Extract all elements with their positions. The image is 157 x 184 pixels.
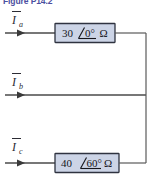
current-arrow-ic	[17, 160, 25, 167]
current-symbol-ib: I	[11, 75, 17, 89]
current-subscript-ib: b	[19, 82, 23, 91]
circuit-diagram: I a 30 0° Ω I b	[0, 0, 157, 184]
current-label-ib: I b	[11, 74, 23, 92]
branch-b-group: I b	[5, 74, 146, 99]
impedance-angle-c: 60°	[87, 157, 102, 169]
current-subscript-ic: c	[19, 147, 23, 156]
current-arrow-ia	[17, 30, 25, 37]
impedance-magnitude-a: 30	[62, 27, 74, 39]
current-label-ic: I c	[11, 139, 23, 157]
current-subscript-ia: a	[19, 20, 23, 29]
impedance-angle-a: 0°	[85, 27, 95, 39]
branch-a-group: I a 30 0° Ω	[5, 12, 146, 43]
current-label-ia: I a	[11, 12, 23, 30]
impedance-unit-a: Ω	[100, 27, 108, 39]
figure-container: Figure P14.2 I a 30 0° Ω	[0, 0, 157, 184]
current-symbol-ic: I	[11, 140, 17, 154]
current-arrow-ib	[17, 92, 25, 99]
branch-c-group: I c 40 60° Ω	[5, 139, 146, 173]
impedance-unit-c: Ω	[104, 157, 112, 169]
impedance-magnitude-c: 40	[61, 157, 73, 169]
current-symbol-ia: I	[11, 13, 17, 27]
